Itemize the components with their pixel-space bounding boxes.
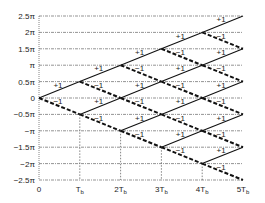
label-plus-one: +1 (217, 81, 227, 90)
label-minus-one: −1 (176, 146, 186, 155)
label-minus-one: −1 (94, 81, 104, 90)
y-tick-labels: 2.5π2π1.5ππ0.5π0−0.5π−π−1.5π−2π−2.5π (14, 12, 36, 185)
y-tick-label: 2.5π (18, 12, 35, 21)
label-minus-one: −1 (217, 130, 227, 139)
y-tick-label: 0.5π (18, 78, 35, 87)
x-tick-label: Tb (76, 185, 85, 195)
y-tick-label: π (29, 61, 35, 70)
label-plus-one: +1 (94, 64, 104, 73)
trellis-svg: +1−1+1−1+1−1+1−1+1−1+1−1+1−1+1−1+1−1+1−1… (0, 0, 265, 203)
label-plus-one: +1 (217, 15, 227, 24)
label-minus-one: −1 (176, 81, 186, 90)
label-minus-one: −1 (176, 114, 186, 123)
label-plus-one: +1 (217, 114, 227, 123)
label-plus-one: +1 (94, 97, 104, 106)
y-tick-label: 1.5π (18, 45, 35, 54)
label-plus-one: +1 (135, 48, 145, 57)
label-plus-one: +1 (217, 48, 227, 57)
x-tick-label: 2Tb (114, 185, 127, 195)
y-tick-label: −0.5π (14, 110, 36, 119)
y-tick-label: 0 (31, 94, 36, 103)
label-minus-one: −1 (217, 97, 227, 106)
label-minus-one: −1 (94, 114, 104, 123)
label-plus-one: +1 (135, 81, 145, 90)
label-minus-one: −1 (135, 64, 145, 73)
x-tick-labels: 0Tb2Tb3Tb4Tb5Tb (37, 185, 250, 195)
label-minus-one: −1 (217, 163, 227, 172)
y-tick-label: −π (25, 127, 36, 136)
msk-phase-trellis-chart: +1−1+1−1+1−1+1−1+1−1+1−1+1−1+1−1+1−1+1−1… (0, 0, 265, 203)
x-tick-label: 5Tb (237, 185, 250, 195)
label-plus-one: +1 (135, 114, 145, 123)
label-minus-one: −1 (135, 130, 145, 139)
label-minus-one: −1 (135, 97, 145, 106)
segment-labels: +1−1+1−1+1−1+1−1+1−1+1−1+1−1+1−1+1−1+1−1… (53, 15, 226, 172)
x-tick-label: 3Tb (155, 185, 168, 195)
label-plus-one: +1 (53, 81, 63, 90)
label-minus-one: −1 (217, 64, 227, 73)
label-minus-one: −1 (53, 97, 63, 106)
y-tick-label: 2π (25, 28, 35, 37)
y-tick-label: −1.5π (14, 143, 36, 152)
label-plus-one: +1 (176, 97, 186, 106)
label-minus-one: −1 (217, 32, 227, 41)
x-tick-label: 0 (37, 185, 42, 194)
label-plus-one: +1 (176, 32, 186, 41)
x-tick-label: 4Tb (196, 185, 209, 195)
label-plus-one: +1 (176, 64, 186, 73)
label-minus-one: −1 (176, 48, 186, 57)
y-tick-label: −2π (20, 160, 35, 169)
label-plus-one: +1 (217, 146, 227, 155)
label-plus-one: +1 (176, 130, 186, 139)
y-tick-label: −2.5π (14, 176, 36, 185)
